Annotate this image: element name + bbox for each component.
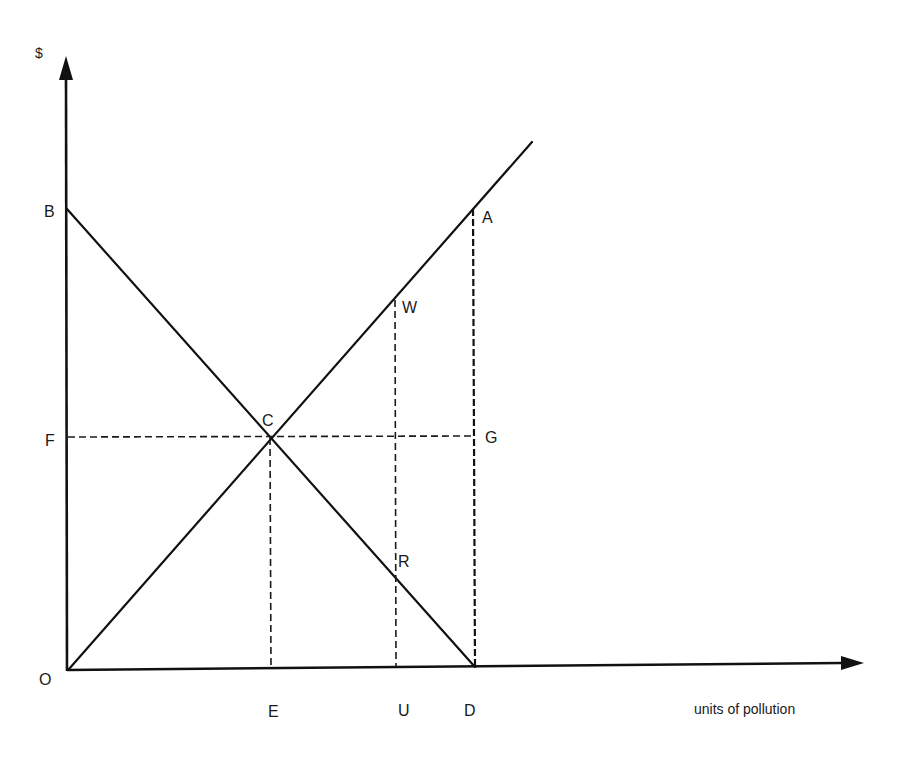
x-axis [67, 663, 842, 670]
pollution-diagram: $ B F O C A W G R E U D units of polluti… [0, 0, 904, 757]
label-E: E [268, 703, 279, 720]
axes [59, 56, 864, 671]
y-axis-arrow-icon [59, 56, 73, 80]
label-W: W [402, 299, 418, 316]
guide-F-G [68, 436, 474, 437]
label-D: D [464, 702, 476, 719]
guide-A-D [473, 209, 475, 667]
label-O: O [39, 671, 51, 688]
label-B: B [44, 203, 55, 220]
curves [67, 142, 532, 669]
y-axis [66, 78, 67, 671]
label-A: A [482, 209, 493, 226]
label-R: R [398, 553, 410, 570]
label-F: F [45, 432, 55, 449]
label-C: C [262, 412, 274, 429]
x-axis-label: units of pollution [694, 701, 795, 717]
point-labels: $ B F O C A W G R E U D units of polluti… [35, 45, 795, 720]
y-axis-label: $ [35, 45, 43, 61]
label-U: U [398, 702, 410, 719]
guide-C-E [270, 438, 271, 668]
label-G: G [485, 429, 497, 446]
rising-line [69, 142, 532, 669]
guide-W-U [395, 300, 396, 667]
x-axis-arrow-icon [841, 656, 864, 670]
